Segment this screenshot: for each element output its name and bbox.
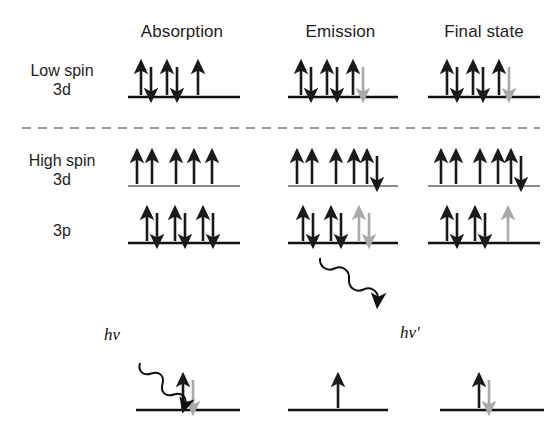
outgoing-photon-wave	[320, 258, 378, 300]
diagram-vector-layer	[0, 0, 548, 428]
incoming-photon-wave	[139, 363, 185, 405]
spin-configuration-diagram: Absorption Emission Final state Low spin…	[0, 0, 548, 428]
